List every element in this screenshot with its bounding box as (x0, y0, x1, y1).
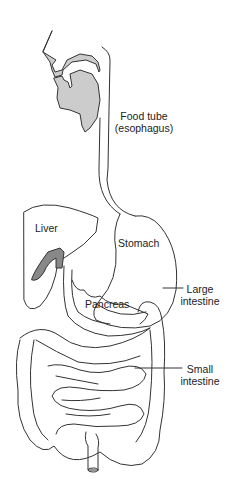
label-liver: Liver (35, 222, 58, 234)
large-intestine-outline (16, 302, 164, 466)
nasal-cavity-shape (43, 31, 100, 77)
stomach-outline (94, 214, 177, 328)
label-stomach: Stomach (118, 237, 159, 249)
transverse-colon-inner (36, 340, 140, 364)
digestive-system-diagram (0, 0, 228, 500)
transverse-colon (20, 328, 150, 348)
label-food-tube-line2: (esophagus) (114, 122, 174, 134)
small-intestine-loops (48, 365, 146, 434)
label-large-intestine-line1: Large (178, 283, 222, 295)
mouth-tongue-shape (54, 70, 100, 132)
label-large-intestine-line2: intestine (178, 295, 222, 307)
label-food-tube-line1: Food tube (114, 110, 174, 122)
label-small-intestine-line2: intestine (178, 375, 222, 387)
label-food-tube: Food tube (esophagus) (114, 110, 174, 134)
label-pancreas: Pancreas (85, 298, 129, 310)
duodenum-inner (72, 270, 110, 324)
label-small-intestine: Small intestine (178, 363, 222, 387)
label-small-intestine-line1: Small (178, 363, 222, 375)
label-large-intestine: Large intestine (178, 283, 222, 307)
rectum-outline (85, 432, 98, 470)
